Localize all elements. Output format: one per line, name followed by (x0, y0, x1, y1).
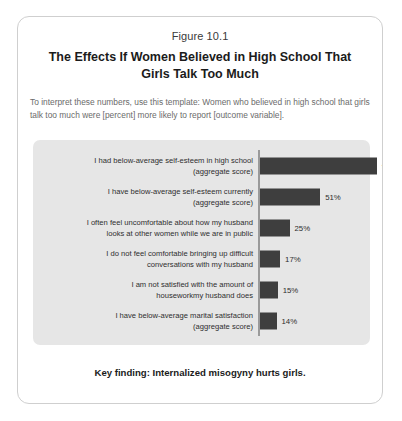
bar-fill (260, 219, 290, 236)
bar-category-label-line1: I do not feel comfortable bringing up di… (53, 248, 253, 259)
figure-card: Figure 10.1 The Effects If Women Believe… (17, 16, 383, 404)
bar-category-label: I had below-average self-esteem in high … (53, 155, 253, 177)
bar-row: I have below-average self-esteem current… (33, 181, 370, 212)
figure-title: The Effects If Women Believed in High Sc… (36, 49, 364, 83)
bar-row: I had below-average self-esteem in high … (33, 150, 370, 181)
bar-fill (260, 157, 377, 174)
bar-fill (260, 312, 277, 329)
bar-rows-container: I had below-average self-esteem in high … (33, 150, 370, 336)
figure-number: Figure 10.1 (18, 30, 382, 42)
bar-category-label-line1: I have below-average self-esteem current… (53, 186, 253, 197)
bar-category-label: I have below-average marital satisfactio… (53, 310, 253, 332)
bar-track: 14% (260, 312, 297, 329)
bar-category-label-line2: (aggregate score) (53, 321, 253, 332)
bar-category-label: I am not satisfied with the amount ofhou… (53, 279, 253, 301)
key-finding-text: Key finding: Internalized misogyny hurts… (18, 367, 382, 378)
bar-value-label: 25% (295, 223, 311, 232)
bar-track: 25% (260, 219, 310, 236)
bar-value-label: 51% (325, 192, 341, 201)
bar-category-label: I often feel uncomfortable about how my … (53, 217, 253, 239)
bar-category-label-line1: I am not satisfied with the amount of (53, 279, 253, 290)
bar-category-label-line2: conversations with my husband (53, 259, 253, 270)
bar-category-label-line2: (aggregate score) (53, 197, 253, 208)
bar-row: I do not feel comfortable bringing up di… (33, 243, 370, 274)
figure-subtitle: To interpret these numbers, use this tem… (30, 96, 370, 122)
bar-fill (260, 188, 320, 205)
bar-category-label-line2: houseworkmy husband does (53, 290, 253, 301)
chart-plot-area: I had below-average self-esteem in high … (33, 140, 370, 345)
bar-value-label: 15% (283, 285, 299, 294)
bar-category-label-line2: looks at other women while we are in pub… (53, 228, 253, 239)
bar-track: 51% (260, 188, 341, 205)
bar-fill (260, 281, 278, 298)
bar-track: 15% (260, 281, 298, 298)
bar-category-label-line1: I had below-average self-esteem in high … (53, 155, 253, 166)
bar-value-label: 99% (382, 161, 383, 170)
bar-value-label: 17% (285, 254, 301, 263)
bar-value-label: 14% (282, 316, 298, 325)
bar-category-label: I have below-average self-esteem current… (53, 186, 253, 208)
bar-row: I am not satisfied with the amount ofhou… (33, 274, 370, 305)
bar-category-label-line1: I often feel uncomfortable about how my … (53, 217, 253, 228)
bar-fill (260, 250, 280, 267)
bar-category-label-line1: I have below-average marital satisfactio… (53, 310, 253, 321)
bar-category-label: I do not feel comfortable bringing up di… (53, 248, 253, 270)
bar-track: 17% (260, 250, 301, 267)
bar-category-label-line2: (aggregate score) (53, 166, 253, 177)
bar-row: I have below-average marital satisfactio… (33, 305, 370, 336)
bar-track: 99% (260, 157, 383, 174)
bar-row: I often feel uncomfortable about how my … (33, 212, 370, 243)
